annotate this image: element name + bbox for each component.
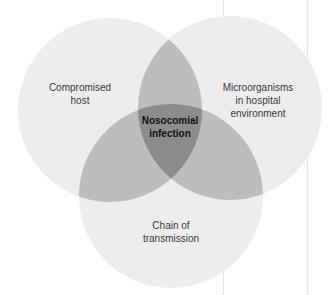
- label-chain-of-transmission: Chain of transmission: [143, 219, 199, 245]
- label-compromised-host: Compromised host: [49, 81, 111, 107]
- label-microorganisms: Microorganisms in hospital environment: [223, 81, 294, 120]
- label-nosocomial-infection: Nosocomial infection: [142, 114, 199, 140]
- venn-diagram: [0, 0, 336, 295]
